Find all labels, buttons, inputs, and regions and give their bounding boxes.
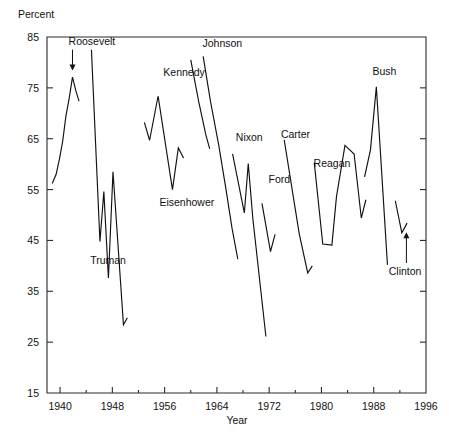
x-tick-label: 1980 [310,400,334,412]
x-tick-label: 1996 [414,400,438,412]
annotation-label-roosevelt: Roosevelt [69,35,116,47]
x-tick-label: 1964 [205,400,229,412]
series-line-clinton [395,201,407,233]
series-line-johnson [203,56,238,259]
y-tick-label: 85 [27,31,39,43]
annotation-label-eisenhower: Eisenhower [159,196,214,208]
annotation-arrowhead-roosevelt [69,65,75,71]
series-line-bush [365,87,388,265]
x-tick-label: 1948 [101,400,125,412]
annotation-label-clinton: Clinton [389,265,422,277]
x-tick-label: 1956 [153,400,177,412]
series-line-eisenhower [144,96,183,190]
y-axis-tick-labels: 1525354555657585 [27,31,39,399]
x-axis-ticks [60,387,400,393]
series-line-roosevelt [52,77,79,183]
x-axis-tick-labels: 19401948195619641972198019881996 [48,400,437,412]
y-axis-ticks [47,88,426,342]
x-tick-label: 1940 [48,400,72,412]
annotation-label-kennedy: Kennedy [163,66,205,78]
annotation-label-reagan: Reagan [314,157,351,169]
plot-border [47,37,426,393]
x-axis-title: Year [226,414,248,426]
presidential-approval-chart: 1525354555657585 19401948195619641972198… [0,0,449,434]
y-tick-label: 15 [27,387,39,399]
annotation-label-ford: Ford [269,173,291,185]
y-tick-label: 75 [27,82,39,94]
annotation-label-bush: Bush [372,65,396,77]
chart-canvas: 1525354555657585 19401948195619641972198… [0,0,449,434]
series-line-nixon [233,154,266,337]
series-line-ford [262,203,275,251]
series-line-truman [91,50,127,325]
annotation-arrowhead-clinton [403,232,409,238]
y-tick-label: 65 [27,133,39,145]
annotation-label-truman: Truman [90,254,126,266]
y-tick-label: 55 [27,184,39,196]
y-tick-label: 25 [27,336,39,348]
series-line-carter [284,140,312,273]
data-series-group [52,50,407,337]
x-tick-label: 1972 [257,400,281,412]
annotation-label-johnson: Johnson [203,37,243,49]
x-tick-label: 1988 [362,400,386,412]
annotation-label-carter: Carter [281,128,311,140]
y-tick-label: 35 [27,285,39,297]
y-tick-label: 45 [27,234,39,246]
plot-frame [47,37,426,393]
y-axis-title: Percent [18,8,54,20]
annotation-label-nixon: Nixon [236,131,263,143]
